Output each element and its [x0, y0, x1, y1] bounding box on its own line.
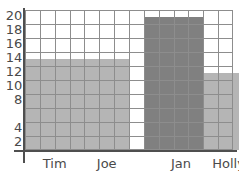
grid-line-vertical	[114, 10, 115, 150]
y-axis-tick-label: 18	[0, 23, 22, 37]
plot-area	[25, 10, 233, 150]
grid-line-vertical	[55, 10, 56, 150]
y-axis-tick-label: 16	[0, 37, 22, 51]
grid-line-vertical	[218, 10, 219, 150]
y-axis-tick-label: 10	[0, 79, 22, 93]
x-axis: TimJoeJanHolly	[25, 154, 233, 176]
y-axis-tick-label: 8	[0, 93, 22, 107]
x-axis-tick-label: Holly	[199, 154, 239, 174]
grid-line-vertical	[25, 10, 26, 150]
grid-line-vertical	[70, 10, 71, 150]
y-axis-tick-label: 2	[0, 135, 22, 149]
x-axis-tick-label: Joe	[77, 154, 137, 174]
grid-line-vertical	[232, 10, 233, 150]
y-axis-tick-label: 4	[0, 121, 22, 135]
bar-chart-figure: 201816141210842 TimJoeJanHolly	[0, 0, 239, 178]
grid-line-vertical	[99, 10, 100, 150]
grid-line-vertical	[159, 10, 160, 150]
y-axis-tick-label: 12	[0, 65, 22, 79]
grid-line-vertical	[40, 10, 41, 150]
y-axis: 201816141210842	[0, 10, 22, 150]
grid-line-vertical	[84, 10, 85, 150]
grid-line-vertical	[174, 10, 175, 150]
grid-vertical-lines	[25, 10, 233, 150]
grid-line-vertical	[144, 10, 145, 150]
grid-line-vertical	[129, 10, 130, 150]
grid-line-vertical	[188, 10, 189, 150]
y-axis-line	[23, 8, 25, 163]
y-axis-tick-label: 14	[0, 51, 22, 65]
y-axis-tick-label: 20	[0, 9, 22, 23]
x-axis-line	[14, 150, 237, 152]
grid-line-vertical	[203, 10, 204, 150]
